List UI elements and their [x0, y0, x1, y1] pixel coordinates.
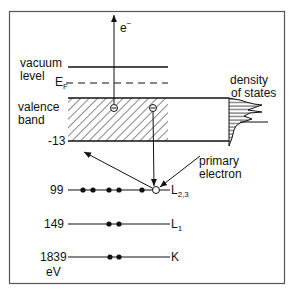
- auger-diagram: vacuum level EF valence band -13 density…: [0, 0, 296, 294]
- level-k-energy: 1839: [40, 250, 67, 264]
- valence-electron-2: [150, 105, 157, 112]
- dos-label-2: of states: [231, 86, 276, 100]
- level-l1-name: L1: [171, 217, 183, 233]
- primary-label-2: electron: [199, 167, 242, 181]
- level-k-name: K: [171, 250, 179, 264]
- core-hole: [153, 187, 160, 194]
- electron-out-label: e−: [120, 19, 132, 35]
- valence-label-2: band: [18, 113, 45, 127]
- vacuum-label-2: level: [20, 69, 45, 83]
- unit-label: eV: [46, 265, 61, 279]
- dos-label-1: density: [230, 73, 268, 87]
- primary-label-1: primary: [199, 154, 239, 168]
- valence-label-1: valence: [18, 100, 60, 114]
- fermi-label: EF: [55, 75, 68, 91]
- level-l1-energy: 149: [44, 217, 64, 231]
- vacuum-label-1: vacuum: [20, 56, 62, 70]
- level-l23-energy: 99: [50, 183, 64, 197]
- scattered-electron-arrow: [84, 152, 154, 189]
- valence-electron-1: [111, 105, 118, 112]
- primary-electron-arrow: [160, 156, 200, 187]
- band-bottom-label: -13: [48, 134, 66, 148]
- level-l23-name: L2,3: [171, 183, 189, 199]
